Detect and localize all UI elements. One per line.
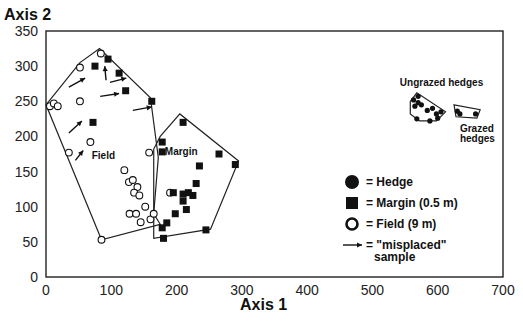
group-label: Field xyxy=(92,150,115,161)
x-tick-label: 500 xyxy=(361,282,385,298)
x-tick-label: 400 xyxy=(295,282,319,298)
misplaced-arrows xyxy=(69,66,152,160)
hedge-point xyxy=(414,116,419,121)
legend-item: = Field (9 m) xyxy=(347,217,437,231)
y-axis-ticks: 050100150200250300350 xyxy=(15,23,39,285)
field-point xyxy=(77,64,84,71)
x-tick-label: 100 xyxy=(100,282,124,298)
open-circle-icon xyxy=(347,219,358,230)
group-label: Ungrazed hedges xyxy=(400,77,484,88)
hedge-point xyxy=(435,116,440,121)
misplaced-arrow-icon xyxy=(133,105,152,110)
group-label: hedges xyxy=(460,133,495,144)
ordination-scatter-chart: Axis 2 050100150200250300350 01002003004… xyxy=(0,0,523,327)
x-tick-label: 0 xyxy=(42,282,50,298)
group-label: Margin xyxy=(165,146,198,157)
field-point xyxy=(77,98,84,105)
field-point xyxy=(129,177,136,184)
legend-item: = Hedge xyxy=(345,175,413,189)
legend-label-line2: sample xyxy=(374,250,416,264)
legend-label: = Field (9 m) xyxy=(366,217,436,231)
arrow-icon xyxy=(343,242,362,247)
y-tick-label: 300 xyxy=(15,58,39,74)
field-hull xyxy=(46,49,160,240)
field-point xyxy=(98,236,105,243)
group-label: Grazed xyxy=(460,123,494,134)
misplaced-arrow-icon xyxy=(75,150,83,160)
margin-point xyxy=(91,63,98,70)
misplaced-arrow-icon xyxy=(69,78,85,87)
hedge-point xyxy=(425,108,430,113)
y-tick-label: 200 xyxy=(15,128,39,144)
margin-point xyxy=(160,235,167,242)
y-tick-label: 150 xyxy=(15,164,39,180)
x-tick-label: 600 xyxy=(426,282,450,298)
y-tick-label: 350 xyxy=(15,23,39,39)
field-point xyxy=(142,203,149,210)
margin-point xyxy=(180,119,187,126)
misplaced-arrow-icon xyxy=(110,77,126,82)
misplaced-arrow-icon xyxy=(69,121,82,133)
margin-point xyxy=(189,192,196,199)
x-tick-label: 700 xyxy=(491,282,515,298)
filled-square-icon xyxy=(346,197,358,209)
field-point xyxy=(121,167,128,174)
field-point xyxy=(136,192,143,199)
y-tick-label: 250 xyxy=(15,93,39,109)
y-tick-label: 100 xyxy=(15,199,39,215)
margin-point xyxy=(90,119,97,126)
margin-point xyxy=(116,70,123,77)
field-point xyxy=(126,210,133,217)
y-tick-label: 50 xyxy=(22,234,38,250)
hedge-point xyxy=(473,111,478,116)
legend: = Hedge= Margin (0.5 m)= Field (9 m)= "m… xyxy=(343,175,458,264)
hedge-point xyxy=(430,106,435,111)
legend-label: = Margin (0.5 m) xyxy=(366,196,458,210)
margin-point xyxy=(172,210,179,217)
margin-point xyxy=(232,161,239,168)
x-axis-title: Axis 1 xyxy=(240,296,287,313)
x-tick-label: 200 xyxy=(165,282,189,298)
margin-point xyxy=(170,189,177,196)
field-point xyxy=(150,210,157,217)
misplaced-arrow-icon xyxy=(103,66,108,80)
group-annotations: FieldMarginUngrazed hedgesGrazedhedges xyxy=(92,77,496,161)
hedge-point xyxy=(427,118,432,123)
hedge-point xyxy=(416,94,421,99)
margin-point xyxy=(122,87,129,94)
field-point xyxy=(54,103,61,110)
y-axis-title: Axis 2 xyxy=(4,6,51,23)
margin-point xyxy=(216,151,223,158)
field-point xyxy=(146,149,153,156)
margin-point xyxy=(202,226,209,233)
legend-item: = Margin (0.5 m) xyxy=(346,196,458,210)
legend-label: = Hedge xyxy=(366,175,413,189)
hedge-point xyxy=(411,97,416,102)
hedge-point xyxy=(416,100,421,105)
margin-point xyxy=(180,198,187,205)
field-point xyxy=(97,50,104,57)
margin-point xyxy=(159,224,166,231)
hedge-point xyxy=(457,111,462,116)
field-point xyxy=(65,149,72,156)
margin-point xyxy=(193,180,200,187)
hedge-point xyxy=(438,109,443,114)
margin-point xyxy=(196,162,203,169)
margin-point xyxy=(148,98,155,105)
margin-point xyxy=(105,56,112,63)
legend-item: = "misplaced"sample xyxy=(343,238,446,264)
field-point xyxy=(133,210,140,217)
field-point xyxy=(87,139,94,146)
margin-point xyxy=(183,206,190,213)
field-point xyxy=(137,219,144,226)
misplaced-arrow-icon xyxy=(100,92,119,97)
filled-circle-icon xyxy=(345,175,359,189)
y-tick-label: 0 xyxy=(30,269,38,285)
margin-point xyxy=(159,139,166,146)
